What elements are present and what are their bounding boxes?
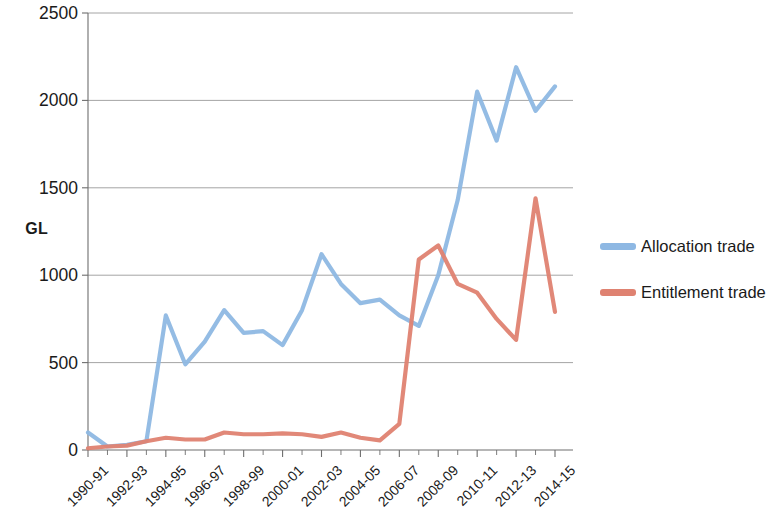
series-line-allocation-trade (88, 67, 555, 446)
x-tick-label: 2004-05 (231, 462, 384, 513)
chart-legend: Allocation tradeEntitlement trade (600, 232, 772, 324)
x-tick-label: 1996-97 (75, 462, 228, 513)
x-tick-label: 2014-15 (426, 462, 579, 513)
line-chart: GL 05001000150020002500 1990-911992-9319… (0, 0, 772, 513)
y-tick-label: 1000 (0, 265, 78, 286)
plot-area (88, 13, 573, 450)
y-tick-label: 500 (0, 352, 78, 373)
x-tick-label: 1998-99 (114, 462, 267, 513)
x-tick-label: 2012-13 (387, 462, 540, 513)
series-line-entitlement-trade (88, 198, 555, 448)
x-tick-label: 2010-11 (348, 462, 501, 513)
y-tick-label: 2500 (0, 3, 78, 24)
legend-item: Allocation trade (600, 232, 772, 260)
x-tick-label: 2002-03 (192, 462, 345, 513)
y-tick-label: 1500 (0, 177, 78, 198)
y-axis-tick-labels: 05001000150020002500 (0, 0, 78, 513)
legend-color-swatch (600, 289, 636, 296)
legend-item: Entitlement trade (600, 278, 772, 306)
x-tick-label: 2006-07 (270, 462, 423, 513)
y-tick-label: 0 (0, 440, 78, 461)
plot-svg (88, 13, 573, 450)
y-tick-label: 2000 (0, 90, 78, 111)
legend-color-swatch (600, 243, 636, 250)
legend-label: Entitlement trade (641, 284, 766, 301)
x-tick-label: 2000-01 (153, 462, 306, 513)
legend-label: Allocation trade (641, 238, 755, 255)
x-tick-label: 2008-09 (309, 462, 462, 513)
